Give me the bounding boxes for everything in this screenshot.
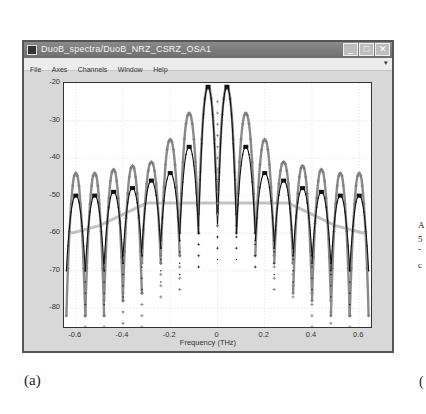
menu-bar: File Axes Channels Window Help ▾ [24,58,392,71]
window-title: DuoB_spectra/DuoB_NRZ_CSRZ_OSA1 [41,44,211,54]
y-tick-label: -60 [38,227,60,236]
menu-dock-arrow-icon[interactable]: ▾ [384,59,388,67]
spectrum-plot [64,83,371,327]
plot-area[interactable] [63,82,372,328]
y-tick-label: -80 [38,302,60,311]
y-tick-label: -30 [38,115,60,124]
maximize-button[interactable]: □ [359,43,374,56]
plot-window: DuoB_spectra/DuoB_NRZ_CSRZ_OSA1 _ □ ✕ Fi… [22,40,394,353]
y-tick-label: -40 [38,152,60,161]
y-tick-label: -70 [38,265,60,274]
title-bar[interactable]: DuoB_spectra/DuoB_NRZ_CSRZ_OSA1 _ □ ✕ [24,42,392,58]
minimize-button[interactable]: _ [343,43,358,56]
clipped-text-fragment: c [418,260,422,270]
clipped-text-fragment: A [418,220,425,230]
close-button[interactable]: ✕ [375,43,390,56]
clipped-text-fragment: ( [419,374,424,390]
menu-channels[interactable]: Channels [78,64,108,76]
app-icon [27,45,37,55]
y-tick-label: -20 [38,77,60,86]
clipped-text-fragment: - [418,244,421,254]
y-tick-label: -50 [38,190,60,199]
menu-file[interactable]: File [30,64,41,76]
clipped-text-fragment: 5 [418,234,423,244]
menu-window[interactable]: Window [118,64,143,76]
menu-help[interactable]: Help [153,64,167,76]
menu-axes[interactable]: Axes [52,64,68,76]
figure-caption: (a) [24,372,41,389]
x-axis-label: Frequency (THz) [24,338,392,347]
